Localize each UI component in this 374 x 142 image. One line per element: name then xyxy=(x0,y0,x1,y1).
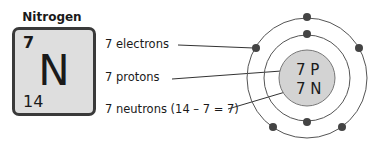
electron-icon xyxy=(252,44,260,52)
neutrons-leader-line xyxy=(228,90,292,109)
electron-icon xyxy=(338,123,346,131)
electron-icon xyxy=(303,13,311,21)
protons-leader-line xyxy=(172,70,295,79)
electron-icon xyxy=(303,30,311,38)
electron-icon xyxy=(269,123,277,131)
nucleus-protons: 7 P xyxy=(296,61,336,79)
electron-icon xyxy=(355,44,363,52)
nucleus-neutrons: 7 N xyxy=(296,80,336,98)
electron-icon xyxy=(303,118,311,126)
electrons-leader-line xyxy=(178,45,254,48)
